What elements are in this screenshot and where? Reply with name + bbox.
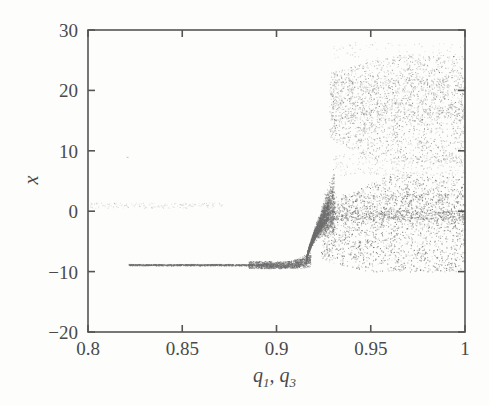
scatter-point (389, 179, 390, 180)
scatter-point (419, 43, 420, 44)
scatter-point (399, 109, 400, 110)
scatter-point (374, 104, 375, 105)
scatter-point (344, 244, 345, 245)
scatter-point (435, 188, 436, 189)
scatter-point (295, 266, 296, 267)
scatter-point (459, 102, 460, 103)
scatter-point (417, 67, 418, 68)
scatter-point (444, 85, 445, 86)
scatter-point (317, 233, 318, 234)
scatter-point (442, 72, 443, 73)
scatter-point (326, 232, 327, 233)
scatter-point (357, 208, 358, 209)
scatter-point (441, 199, 442, 200)
scatter-point (331, 224, 332, 225)
scatter-point (409, 114, 410, 115)
scatter-point (334, 124, 335, 125)
scatter-point (409, 217, 410, 218)
scatter-point (461, 256, 462, 257)
scatter-point (256, 262, 257, 263)
scatter-point (448, 94, 449, 95)
scatter-point (410, 161, 411, 162)
scatter-point (321, 220, 322, 221)
scatter-point (452, 124, 453, 125)
scatter-point (396, 205, 397, 206)
scatter-point (388, 255, 389, 256)
scatter-point (357, 83, 358, 84)
scatter-point (448, 203, 449, 204)
scatter-point (421, 244, 422, 245)
scatter-point (400, 151, 401, 152)
scatter-point (353, 123, 354, 124)
scatter-point (362, 214, 363, 215)
scatter-point (404, 87, 405, 88)
scatter-point (397, 179, 398, 180)
scatter-point (434, 71, 435, 72)
scatter-point (395, 128, 396, 129)
scatter-point (312, 243, 313, 244)
scatter-point (422, 115, 423, 116)
scatter-point (428, 265, 429, 266)
scatter-point (328, 232, 329, 233)
scatter-point (375, 241, 376, 242)
scatter-point (459, 248, 460, 249)
scatter-point (422, 106, 423, 107)
scatter-point (399, 84, 400, 85)
scatter-point (358, 240, 359, 241)
scatter-point (439, 108, 440, 109)
scatter-point (418, 61, 419, 62)
scatter-point (445, 151, 446, 152)
scatter-point (360, 81, 361, 82)
scatter-point (377, 116, 378, 117)
scatter-point (463, 172, 464, 173)
scatter-point (408, 110, 409, 111)
scatter-point (436, 212, 437, 213)
scatter-point (373, 232, 374, 233)
scatter-point (400, 171, 401, 172)
scatter-point (311, 239, 312, 240)
scatter-point (380, 227, 381, 228)
scatter-point (347, 53, 348, 54)
scatter-point (284, 261, 285, 262)
scatter-point (351, 250, 352, 251)
scatter-point (346, 228, 347, 229)
scatter-point (395, 125, 396, 126)
scatter-point (365, 239, 366, 240)
scatter-point (338, 204, 339, 205)
scatter-point (417, 220, 418, 221)
scatter-point (381, 250, 382, 251)
scatter-point (461, 141, 462, 142)
scatter-point (295, 264, 296, 265)
scatter-point (463, 212, 464, 213)
scatter-point (352, 227, 353, 228)
scatter-point (377, 207, 378, 208)
scatter-point (269, 265, 270, 266)
scatter-point (450, 224, 451, 225)
scatter-point (329, 202, 330, 203)
scatter-point (396, 212, 397, 213)
scatter-point (373, 76, 374, 77)
scatter-point (347, 204, 348, 205)
scatter-point (271, 267, 272, 268)
scatter-point (452, 211, 453, 212)
scatter-point (426, 209, 427, 210)
scatter-point (348, 201, 349, 202)
scatter-point (158, 265, 159, 266)
scatter-point (456, 213, 457, 214)
figure-root: −20−1001020300.80.850.90.951 x q1,q3 (0, 0, 489, 405)
scatter-point (377, 127, 378, 128)
scatter-point (279, 267, 280, 268)
scatter-point (376, 81, 377, 82)
scatter-point (440, 150, 441, 151)
scatter-point (454, 208, 455, 209)
scatter-point (396, 197, 397, 198)
scatter-point (461, 231, 462, 232)
scatter-point (437, 108, 438, 109)
scatter-point (329, 233, 330, 234)
scatter-point (371, 132, 372, 133)
scatter-point (371, 245, 372, 246)
scatter-point (402, 197, 403, 198)
scatter-point (402, 181, 403, 182)
scatter-point (196, 264, 197, 265)
scatter-point (351, 207, 352, 208)
